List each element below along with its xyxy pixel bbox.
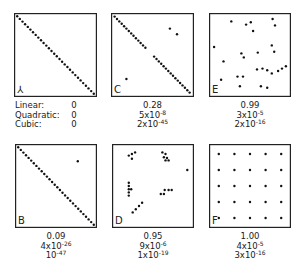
- data-point: [252, 30, 254, 32]
- data-point: [40, 39, 42, 41]
- scatter-plot: F: [209, 144, 291, 228]
- data-point: [264, 201, 266, 203]
- data-point: [77, 77, 79, 79]
- panel-label: D: [115, 215, 123, 226]
- stat-cubic: 2x10-45: [111, 120, 194, 130]
- data-point: [256, 68, 258, 70]
- data-point: [77, 208, 79, 210]
- data-point: [139, 42, 141, 44]
- data-point: [67, 197, 69, 199]
- data-point: [261, 67, 263, 69]
- data-point: [53, 53, 55, 55]
- data-point: [161, 151, 163, 153]
- data-point: [116, 18, 118, 20]
- panel-stats-c: 0.285x10-82x10-45: [111, 101, 194, 130]
- data-point: [260, 85, 262, 87]
- data-point: [144, 47, 146, 49]
- scatter-plot: C: [111, 13, 194, 97]
- data-point: [167, 189, 169, 191]
- data-point: [285, 65, 287, 67]
- panel-b: B: [15, 144, 97, 228]
- data-point: [186, 169, 188, 171]
- scatter-plot: B: [15, 144, 97, 228]
- data-point: [218, 217, 220, 219]
- data-point: [87, 87, 89, 89]
- data-point: [35, 34, 37, 36]
- data-point: [164, 159, 166, 161]
- data-point: [82, 213, 84, 215]
- data-point: [158, 60, 160, 62]
- data-point: [218, 169, 220, 171]
- data-point: [249, 153, 251, 155]
- data-point: [72, 202, 74, 204]
- data-point: [233, 217, 235, 219]
- data-point: [87, 218, 89, 220]
- data-point: [218, 201, 220, 203]
- data-point: [25, 154, 27, 156]
- data-point: [61, 192, 63, 194]
- panel-d: D: [112, 144, 194, 228]
- data-point: [132, 211, 134, 213]
- stat-cubic: 2x10-16: [209, 120, 291, 130]
- data-point: [22, 151, 24, 153]
- data-point: [130, 32, 132, 34]
- panel-label: E: [212, 84, 218, 95]
- data-point: [64, 194, 66, 196]
- data-point: [90, 221, 92, 223]
- data-point: [59, 189, 61, 191]
- data-point: [280, 153, 282, 155]
- data-point: [213, 46, 215, 48]
- data-point: [236, 75, 238, 77]
- data-point: [243, 56, 245, 58]
- data-point: [54, 184, 56, 186]
- data-point: [249, 185, 251, 187]
- data-point: [264, 169, 266, 171]
- data-point: [239, 85, 241, 87]
- data-point: [273, 51, 275, 53]
- data-point: [164, 153, 166, 155]
- data-point: [264, 153, 266, 155]
- data-point: [134, 151, 136, 153]
- data-point: [249, 169, 251, 171]
- data-point: [160, 63, 162, 65]
- data-point: [128, 185, 130, 187]
- data-point: [167, 159, 169, 161]
- panel-frame: [113, 145, 194, 228]
- data-point: [128, 191, 130, 193]
- stat-legend: Linear: Quadratic: Cubic:: [15, 101, 60, 130]
- data-point: [163, 156, 165, 158]
- data-point: [162, 65, 164, 67]
- data-point: [257, 51, 259, 53]
- panel-label: F: [212, 215, 218, 226]
- data-point: [113, 15, 115, 17]
- data-point: [30, 159, 32, 161]
- data-point: [125, 78, 127, 80]
- data-point: [249, 201, 251, 203]
- data-point: [179, 82, 181, 84]
- data-point: [249, 217, 251, 219]
- data-point: [171, 189, 173, 191]
- data-point: [37, 36, 39, 38]
- data-point: [58, 58, 60, 60]
- data-point: [93, 224, 95, 226]
- legend-cubic: Cubic:: [15, 120, 60, 130]
- data-point: [233, 169, 235, 171]
- data-point: [33, 162, 35, 164]
- data-point: [32, 31, 34, 33]
- data-point: [153, 55, 155, 57]
- data-point: [172, 75, 174, 77]
- data-point: [277, 70, 279, 72]
- data-point: [266, 87, 268, 89]
- data-point: [128, 188, 130, 190]
- panel-label: B: [18, 215, 25, 226]
- panel-e: E: [209, 13, 291, 97]
- data-point: [181, 84, 183, 86]
- data-point: [128, 182, 130, 184]
- data-point: [93, 93, 95, 95]
- data-point: [19, 18, 21, 20]
- data-point: [51, 181, 53, 183]
- data-point: [69, 200, 71, 202]
- data-point: [16, 15, 18, 17]
- data-point: [233, 153, 235, 155]
- data-point: [245, 23, 247, 25]
